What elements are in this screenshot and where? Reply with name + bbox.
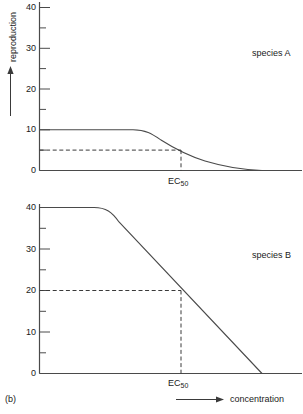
panel-b-ytick-label-0: 0 [14, 369, 36, 378]
figure-dose-response-curves: 40 30 20 10 0 species A EC50 40 30 20 10… [0, 0, 302, 414]
panel-b-ytick-label-40: 40 [14, 203, 36, 212]
panel-b-axes [40, 204, 303, 374]
panel-b-ytick-label-10: 10 [14, 328, 36, 337]
panel-b-ec50-subscript: 50 [181, 382, 189, 389]
y-axis-title: reproduction [9, 12, 18, 62]
panel-a-ec50-label: EC50 [168, 177, 188, 186]
panel-a-ec50-subscript: 50 [181, 180, 189, 187]
panel-b-ec50-label: EC50 [168, 379, 188, 388]
panel-a-species-label: species A [252, 49, 291, 58]
panel-b-ytick-label-30: 30 [14, 245, 36, 254]
panel-a-axes [40, 2, 303, 171]
panel-a-ytick-label-40: 40 [14, 3, 36, 12]
panel-a-ytick-label-0: 0 [14, 166, 36, 175]
panel-a-ytick-label-10: 10 [14, 125, 36, 134]
panel-b-species-label: species B [252, 251, 291, 260]
panel-label-b: (b) [5, 395, 16, 404]
x-axis-title: concentration [230, 395, 284, 404]
panel-a-ec50-base: EC [168, 176, 181, 186]
x-axis-arrow [176, 396, 224, 402]
figure-svg [0, 0, 302, 414]
panel-a-ytick-label-20: 20 [14, 85, 36, 94]
y-axis-arrow [7, 66, 13, 116]
panel-b-ec50-base: EC [168, 378, 181, 388]
panel-b-ytick-label-20: 20 [14, 286, 36, 295]
